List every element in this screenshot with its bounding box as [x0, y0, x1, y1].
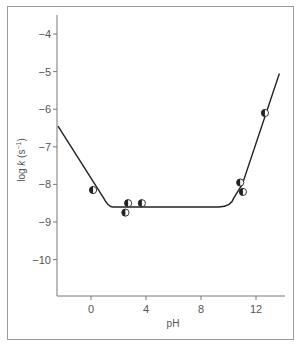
x-tick-label: 12 [250, 303, 262, 315]
x-tick-label: 8 [198, 303, 204, 315]
data-point-marker [89, 186, 96, 193]
y-tick-label: −9 [38, 216, 51, 228]
ph-rate-profile-chart: −4−5−6−7−8−9−1004812 pH log k (s−1) [0, 0, 301, 350]
y-axis-label-close: ) [16, 138, 27, 141]
data-point-marker [122, 209, 129, 216]
y-tick-label: −6 [38, 103, 51, 115]
y-axis-label-sup: −1 [15, 141, 22, 149]
y-tick-label: −5 [38, 66, 51, 78]
x-tick-label: 0 [88, 303, 94, 315]
y-tick-label: −10 [32, 254, 51, 266]
data-point-marker [239, 188, 246, 195]
x-tick-label: 4 [143, 303, 149, 315]
data-point-marker [125, 200, 132, 207]
y-tick-label: −4 [38, 28, 51, 40]
data-point-marker [237, 179, 244, 186]
y-axis-label-main: log [16, 166, 27, 182]
y-axis-label: log k (s−1) [15, 138, 27, 182]
y-axis-label-unit: (s [16, 150, 27, 161]
y-tick-label: −7 [38, 141, 51, 153]
axes: −4−5−6−7−8−9−1004812 [32, 15, 285, 315]
x-axis-label: pH [167, 318, 180, 329]
data-points [89, 109, 268, 216]
data-point-marker [138, 200, 145, 207]
data-point-marker [261, 109, 268, 116]
y-tick-label: −8 [38, 178, 51, 190]
